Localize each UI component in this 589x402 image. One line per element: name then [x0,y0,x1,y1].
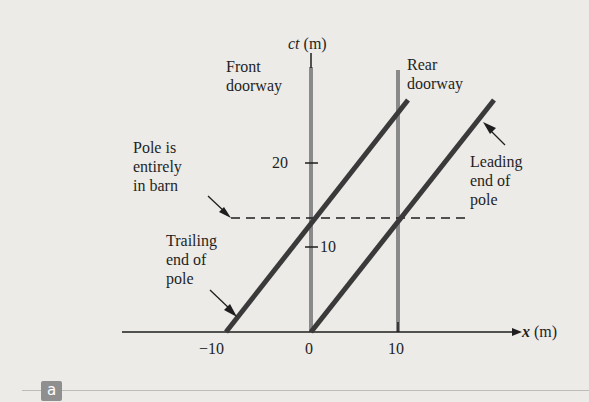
leading-end-label: Leadingend ofpole [470,152,522,209]
x-tick-label-10: 10 [388,340,404,358]
y-axis-label: ct (m) [288,34,327,53]
leading-end-arrow-icon [483,122,496,134]
trailing-end-label: Trailingend ofpole [166,231,217,288]
divider [22,390,589,391]
rear-doorway-label: Reardoorway [407,55,463,93]
trailing-end-worldline [226,100,408,332]
y-tick-label-20: 20 [272,154,288,172]
x-tick-label-neg10: −10 [199,340,224,358]
x-axis-label: x (m) [522,322,557,341]
leading-end-worldline [311,100,494,332]
front-doorway-label: Frontdoorway [226,57,282,95]
y-tick-label-10: 10 [320,238,336,256]
panel-label-badge: a [41,381,62,401]
x-tick-label-0: 0 [305,340,313,358]
x-axis-arrow-icon [512,328,522,336]
pole-in-barn-label: Pole isentirelyin barn [133,138,182,195]
